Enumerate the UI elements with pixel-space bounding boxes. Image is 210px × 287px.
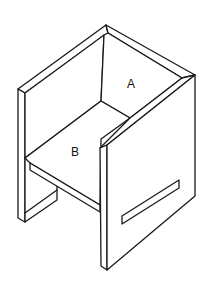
label-a: A (127, 77, 135, 91)
box-chair-diagram: A B (0, 0, 210, 287)
label-b: B (71, 145, 79, 159)
